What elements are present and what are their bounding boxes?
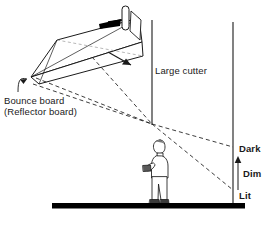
label-large-cutter: Large cutter (155, 65, 207, 76)
operator-shoe-back (160, 200, 169, 204)
label-bounce-board: Bounce board(Reflector board) (4, 95, 77, 117)
label-dark: Dark (239, 143, 261, 154)
label-bounce-board-line1: Bounce board (4, 95, 64, 106)
standing-camera-operator (143, 140, 169, 204)
bounce-board-leader-arrowhead (20, 79, 27, 84)
lamp-body (122, 6, 129, 30)
bounce-board-leader-line (18, 78, 27, 92)
operator-camera (143, 165, 151, 172)
label-lit: Lit (239, 190, 251, 201)
falloff-arrow-head (235, 156, 242, 163)
ground-floor-bar (52, 203, 245, 209)
light-falloff-arrow (235, 156, 242, 190)
operator-legs (152, 177, 167, 200)
label-bounce-board-line2: (Reflector board) (4, 106, 77, 117)
operator-shoe-front (150, 200, 160, 204)
label-dim: Dim (243, 168, 261, 179)
figure-caption (4, 222, 275, 232)
lighting-setup-figure: Large cutter Bounce board(Reflector boar… (0, 0, 279, 232)
